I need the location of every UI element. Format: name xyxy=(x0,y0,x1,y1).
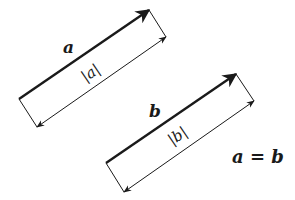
vector-b-arrow xyxy=(106,74,236,163)
equation-label: a = b xyxy=(232,146,284,167)
vector-a-magnitude-arrow xyxy=(37,37,166,127)
vector-a-label: a xyxy=(63,37,74,57)
vector-b: b |b| xyxy=(106,74,254,192)
vector-a-magnitude-label: |a| xyxy=(78,60,104,86)
vector-b-bracket-top xyxy=(236,74,254,101)
vector-b-bracket-bottom xyxy=(106,163,124,192)
equal-vectors-diagram: a |a| b |b| a = b xyxy=(0,0,295,200)
vector-a-arrow xyxy=(19,10,149,99)
vector-a-bracket-top xyxy=(149,10,166,37)
vector-a-bracket-bottom xyxy=(19,99,37,127)
vector-b-label: b xyxy=(149,101,161,121)
vector-b-magnitude-label: |b| xyxy=(164,123,190,149)
vector-a: a |a| xyxy=(19,10,166,127)
